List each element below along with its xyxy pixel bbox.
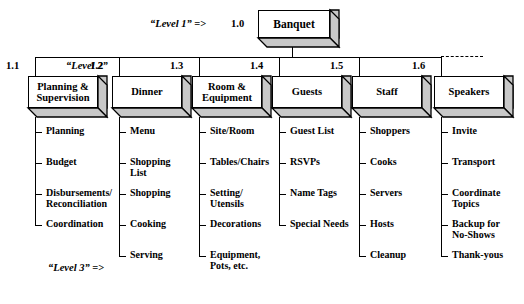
branch-tick-1.4-3 [279, 225, 286, 226]
branch-tick-1.5-2 [359, 194, 366, 195]
branch-box-1.4-label: Guests [292, 86, 322, 97]
branch-box-1.3-label: Room & Equipment [202, 81, 252, 104]
wbs-diagram: Banquet1.0“Level 1” =>“Level 2”1.1Planni… [0, 0, 524, 304]
level-1-annotation: “Level 1” => [150, 18, 206, 29]
task-label: Setting/ Utensils [210, 187, 244, 209]
task-label: Invite [452, 125, 477, 136]
branch-tick-1.1-0 [35, 132, 42, 133]
branch-tick-1.5-3 [359, 225, 366, 226]
branch-number-1.2: 1.2 [90, 60, 103, 71]
branch-tick-1.3-0 [199, 132, 206, 133]
task-label: Coordination [46, 218, 103, 229]
branch-stem-1.5 [359, 57, 360, 76]
task-label: Backup for No-Shows [452, 218, 500, 240]
branch-number-1.6: 1.6 [412, 60, 425, 71]
branch-box-1.4-face: Guests [272, 76, 342, 108]
task-label: Special Needs [290, 218, 349, 229]
branch-tick-1.3-3 [199, 225, 206, 226]
branch-tick-1.5-0 [359, 132, 366, 133]
branch-box-1.2-label: Dinner [131, 86, 163, 97]
task-label: Cooks [370, 156, 397, 167]
branch-tick-1.3-4 [199, 256, 206, 257]
branch-tick-1.2-4 [119, 256, 126, 257]
task-label: Planning [46, 125, 84, 136]
branch-number-1.4: 1.4 [250, 60, 263, 71]
branch-tick-1.4-1 [279, 163, 286, 164]
branch-tick-1.5-4 [359, 256, 366, 257]
task-label: Site/Room [210, 125, 254, 136]
task-label: Shoppers [370, 125, 410, 136]
task-label: Equipment, Pots, etc. [210, 249, 260, 271]
branch-number-1.3: 1.3 [170, 60, 183, 71]
level-3-annotation-text: “Level 3” [48, 262, 92, 273]
branch-tick-1.2-1 [119, 163, 126, 164]
task-label: Cleanup [370, 249, 406, 260]
branch-tick-1.6-2 [441, 194, 448, 195]
branch-number-1.5: 1.5 [330, 60, 343, 71]
root-box: Banquet [258, 10, 339, 47]
branch-box-1.1-face: Planning & Supervision [28, 76, 98, 108]
task-label: RSVPs [290, 156, 320, 167]
task-label: Budget [46, 156, 77, 167]
branch-box-1.3: Room & Equipment [192, 76, 271, 117]
branch-number-1.1: 1.1 [6, 60, 19, 71]
branch-box-1.5-face: Staff [352, 76, 422, 108]
task-label: Cooking [130, 218, 166, 229]
task-label: Guest List [290, 125, 334, 136]
branch-box-1.1-label: Planning & Supervision [36, 81, 89, 104]
branch-tick-1.2-0 [119, 132, 126, 133]
branch-tick-1.4-2 [279, 194, 286, 195]
branch-tick-1.6-4 [441, 256, 448, 257]
branch-tick-1.6-1 [441, 163, 448, 164]
task-label: Transport [452, 156, 495, 167]
task-label: Name Tags [290, 187, 337, 198]
level-2-bus [35, 57, 441, 58]
level-3-annotation: “Level 3” => [48, 262, 104, 273]
task-label: Shopping [130, 187, 171, 198]
branch-box-1.6-face: Speakers [434, 76, 504, 108]
task-label: Shopping List [130, 156, 171, 178]
branch-stem-1.1 [35, 57, 36, 76]
task-label: Disbursements/ Reconciliation [46, 187, 112, 209]
branch-tick-1.6-3 [441, 225, 448, 226]
branch-box-1.5: Staff [352, 76, 431, 117]
branch-tick-1.4-0 [279, 132, 286, 133]
branch-tick-1.1-3 [35, 225, 42, 226]
root-box-face: Banquet [258, 10, 330, 38]
task-label: Thank-yous [452, 249, 503, 260]
root-number: 1.0 [231, 18, 244, 29]
branch-spine-1.5 [359, 117, 360, 256]
task-label: Hosts [370, 218, 394, 229]
level-1-annotation-text: “Level 1” [150, 18, 194, 29]
branch-stem-1.6 [441, 57, 442, 76]
branch-box-1.5-label: Staff [376, 86, 398, 97]
branch-tick-1.6-0 [441, 132, 448, 133]
branch-box-1.6: Speakers [434, 76, 513, 117]
branch-tick-1.3-2 [199, 194, 206, 195]
branch-spine-1.3 [199, 117, 200, 256]
branch-box-1.3-face: Room & Equipment [192, 76, 262, 108]
branch-tick-1.2-2 [119, 194, 126, 195]
task-label: Decorations [210, 218, 261, 229]
task-label: Serving [130, 249, 163, 260]
branch-spine-1.6 [441, 117, 442, 256]
branch-box-1.2: Dinner [112, 76, 191, 117]
branch-tick-1.2-3 [119, 225, 126, 226]
branch-box-1.4: Guests [272, 76, 351, 117]
branch-box-1.2-face: Dinner [112, 76, 182, 108]
branch-tick-1.1-2 [35, 194, 42, 195]
branch-stem-1.3 [199, 57, 200, 76]
branch-spine-1.2 [119, 117, 120, 256]
branch-box-1.1: Planning & Supervision [28, 76, 107, 117]
branch-tick-1.3-1 [199, 163, 206, 164]
root-box-label: Banquet [273, 18, 315, 30]
task-label: Coordinate Topics [452, 187, 500, 209]
branch-stem-1.2 [119, 57, 120, 76]
branch-tick-1.1-1 [35, 163, 42, 164]
task-label: Servers [370, 187, 402, 198]
branch-box-1.6-label: Speakers [449, 86, 490, 97]
bus-dashed-continuation [441, 56, 483, 57]
branch-tick-1.5-1 [359, 163, 366, 164]
task-label: Tables/Chairs [210, 156, 269, 167]
task-label: Menu [130, 125, 155, 136]
